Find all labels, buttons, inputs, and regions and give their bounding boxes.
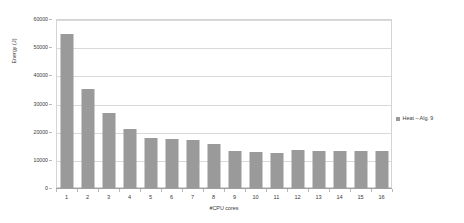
bar[interactable]: [312, 151, 325, 188]
bar[interactable]: [249, 152, 262, 188]
x-axis-tick: [140, 189, 141, 192]
x-axis-tick-label: 4: [128, 193, 131, 201]
x-axis-tick-label: 11: [274, 193, 280, 201]
x-axis-tick: [287, 189, 288, 192]
y-axis-tick-label: 10000: [34, 157, 48, 163]
y-axis-tick-label: 0: [45, 185, 48, 191]
x-axis-title: #CPU cores: [56, 205, 392, 211]
x-axis-tick-label: 2: [86, 193, 89, 201]
x-axis-tick-label: 9: [233, 193, 236, 201]
bar-slot: [98, 19, 119, 188]
bar-slot: [182, 19, 203, 188]
x-axis-tick: [266, 189, 267, 192]
bar[interactable]: [375, 151, 388, 188]
bar-slot: [119, 19, 140, 188]
x-axis-tick: [308, 189, 309, 192]
bar-slot: [140, 19, 161, 188]
bar[interactable]: [102, 113, 115, 188]
x-axis-tick: [329, 189, 330, 192]
bar-slot: [371, 19, 392, 188]
y-axis-tick-labels: 0100002000030000400005000060000: [18, 19, 52, 188]
bar-slot: [245, 19, 266, 188]
y-axis-tick: [49, 132, 52, 133]
bar-series-heat-alg-9: [56, 19, 392, 188]
x-axis-tick: [56, 189, 57, 192]
y-axis-tick: [49, 188, 52, 189]
x-axis-tick-label: 13: [315, 193, 321, 201]
bar[interactable]: [81, 89, 94, 188]
x-axis-ticks: [56, 189, 392, 192]
bar[interactable]: [270, 153, 283, 188]
x-axis-tick-label: 3: [107, 193, 110, 201]
bar-slot: [266, 19, 287, 188]
bar[interactable]: [333, 151, 346, 188]
bar-slot: [203, 19, 224, 188]
x-axis-tick: [161, 189, 162, 192]
x-axis-tick-labels: 12345678910111213141516: [56, 193, 392, 202]
y-axis-tick-label: 20000: [34, 129, 48, 135]
bar[interactable]: [60, 34, 73, 188]
x-axis-tick-label: 6: [170, 193, 173, 201]
bar-slot: [350, 19, 371, 188]
bar[interactable]: [228, 151, 241, 188]
y-axis-tick: [49, 104, 52, 105]
legend-swatch-icon: [396, 117, 400, 121]
bar-slot: [287, 19, 308, 188]
bar[interactable]: [123, 129, 136, 188]
x-axis-tick-label: 12: [294, 193, 300, 201]
y-axis-tick: [49, 47, 52, 48]
x-axis-tick-label: 8: [212, 193, 215, 201]
x-axis-tick: [119, 189, 120, 192]
y-axis-tick: [49, 19, 52, 20]
x-axis-tick-label: 14: [336, 193, 342, 201]
y-axis-tick: [49, 160, 52, 161]
x-axis-tick-label: 16: [378, 193, 384, 201]
bar-chart: Energy (J) 01000020000300004000050000600…: [0, 0, 464, 223]
bar-slot: [56, 19, 77, 188]
bar[interactable]: [291, 150, 304, 188]
x-axis-tick: [182, 189, 183, 192]
x-axis-tick: [392, 189, 393, 192]
bar-slot: [329, 19, 350, 188]
x-axis-tick-label: 1: [65, 193, 68, 201]
bar-slot: [77, 19, 98, 188]
x-axis-tick: [224, 189, 225, 192]
bar-slot: [308, 19, 329, 188]
legend-item-label: Heat – Alg. 9: [403, 115, 434, 122]
bar-slot: [161, 19, 182, 188]
x-axis-tick: [77, 189, 78, 192]
bar[interactable]: [354, 151, 367, 188]
y-axis-tick: [49, 75, 52, 76]
x-axis-tick-label: 5: [149, 193, 152, 201]
bar[interactable]: [144, 138, 157, 188]
x-axis-tick-label: 7: [191, 193, 194, 201]
y-axis-tick-label: 40000: [34, 72, 48, 78]
legend: Heat – Alg. 9: [396, 115, 433, 122]
x-axis-tick: [203, 189, 204, 192]
x-axis-tick: [371, 189, 372, 192]
y-axis-tick-label: 50000: [34, 44, 48, 50]
y-axis-tick-label: 30000: [34, 101, 48, 107]
bar-slot: [224, 19, 245, 188]
y-axis-tick-label: 60000: [34, 16, 48, 22]
x-axis-tick-label: 15: [357, 193, 363, 201]
x-axis-tick: [245, 189, 246, 192]
x-axis-tick-label: 10: [252, 193, 258, 201]
bar[interactable]: [186, 140, 199, 188]
bar[interactable]: [207, 144, 220, 188]
x-axis-tick: [350, 189, 351, 192]
x-axis-tick: [98, 189, 99, 192]
bar[interactable]: [165, 139, 178, 188]
